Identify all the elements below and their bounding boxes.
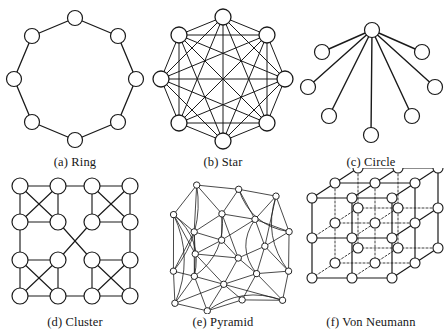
node[interactable] [415, 45, 430, 60]
node[interactable] [191, 273, 198, 280]
node[interactable] [122, 252, 138, 268]
curved-edge [162, 185, 208, 271]
node[interactable] [153, 71, 169, 87]
node[interactable] [215, 9, 231, 25]
node[interactable] [84, 178, 100, 194]
node[interactable] [330, 178, 340, 188]
edge [329, 30, 372, 116]
von-neumann-diagram [296, 168, 446, 314]
node[interactable] [370, 218, 380, 228]
panel-von-neumann: (f) Von Neumann [296, 168, 446, 329]
node[interactable] [84, 214, 100, 230]
node[interactable] [215, 133, 231, 149]
edge [257, 271, 283, 304]
node[interactable] [170, 211, 177, 218]
node[interactable] [12, 252, 28, 268]
node[interactable] [12, 214, 28, 230]
node[interactable] [68, 133, 83, 148]
node[interactable] [370, 258, 380, 268]
node[interactable] [192, 250, 199, 257]
edge [206, 300, 242, 311]
node[interactable] [251, 216, 258, 223]
edge [257, 269, 289, 275]
node[interactable] [285, 228, 292, 235]
node[interactable] [387, 233, 397, 243]
node[interactable] [122, 214, 138, 230]
node[interactable] [322, 109, 337, 124]
node[interactable] [433, 243, 443, 253]
node[interactable] [191, 228, 198, 235]
edge [372, 30, 412, 116]
node[interactable] [50, 214, 66, 230]
node[interactable] [393, 168, 403, 173]
node[interactable] [393, 243, 403, 253]
node[interactable] [171, 300, 178, 307]
node[interactable] [410, 178, 420, 188]
node[interactable] [387, 193, 397, 203]
node[interactable] [365, 23, 380, 38]
node[interactable] [238, 296, 245, 303]
node[interactable] [433, 203, 443, 213]
edge [265, 243, 289, 274]
node[interactable] [387, 273, 397, 283]
node[interactable] [410, 258, 420, 268]
node[interactable] [347, 193, 357, 203]
node[interactable] [259, 115, 275, 131]
node[interactable] [171, 27, 187, 43]
node[interactable] [122, 288, 138, 304]
node[interactable] [7, 72, 22, 87]
node[interactable] [330, 258, 340, 268]
node[interactable] [259, 27, 275, 43]
node[interactable] [12, 178, 28, 194]
node[interactable] [393, 203, 403, 213]
node[interactable] [12, 288, 28, 304]
node[interactable] [353, 243, 363, 253]
node[interactable] [330, 218, 340, 228]
node[interactable] [171, 115, 187, 131]
node[interactable] [272, 193, 279, 200]
node[interactable] [50, 178, 66, 194]
node[interactable] [25, 29, 40, 44]
node[interactable] [68, 11, 83, 26]
node[interactable] [253, 270, 260, 277]
node[interactable] [170, 268, 177, 275]
node[interactable] [405, 109, 420, 124]
node[interactable] [347, 273, 357, 283]
node[interactable] [218, 210, 225, 217]
node[interactable] [235, 254, 242, 261]
node[interactable] [50, 288, 66, 304]
node[interactable] [301, 80, 316, 95]
node[interactable] [193, 181, 200, 188]
node[interactable] [353, 203, 363, 213]
node[interactable] [410, 218, 420, 228]
node[interactable] [347, 233, 357, 243]
node[interactable] [433, 168, 443, 173]
node[interactable] [353, 168, 363, 173]
node[interactable] [122, 178, 138, 194]
node[interactable] [84, 288, 100, 304]
node[interactable] [364, 128, 379, 143]
node[interactable] [218, 237, 225, 244]
node[interactable] [84, 252, 100, 268]
node[interactable] [111, 29, 126, 44]
node[interactable] [25, 115, 40, 130]
node[interactable] [50, 252, 66, 268]
node[interactable] [307, 233, 317, 243]
node[interactable] [279, 297, 286, 304]
node[interactable] [204, 307, 211, 314]
curved-edge [163, 214, 191, 303]
node[interactable] [261, 243, 268, 250]
node[interactable] [235, 186, 242, 193]
node[interactable] [220, 281, 227, 288]
edge [222, 209, 255, 223]
node[interactable] [277, 71, 293, 87]
node[interactable] [285, 268, 292, 275]
node[interactable] [111, 115, 126, 130]
node[interactable] [370, 178, 380, 188]
node[interactable] [428, 80, 443, 95]
node[interactable] [307, 273, 317, 283]
node[interactable] [307, 193, 317, 203]
node[interactable] [129, 72, 144, 87]
node[interactable] [315, 45, 330, 60]
edge [166, 215, 182, 272]
